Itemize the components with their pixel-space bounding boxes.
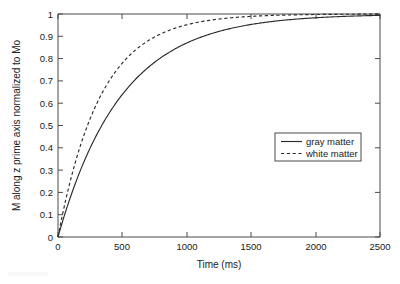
y-tick-label: 0.2 [40, 187, 53, 198]
chart-plot: 0 500 1000 1500 2000 2500 0 0.1 0.2 0.3 … [0, 0, 400, 284]
legend-label-gray-matter: gray matter [306, 136, 354, 147]
x-tickmarks [58, 14, 380, 237]
y-tick-labels: 0 0.1 0.2 0.3 0.4 0.5 0.6 0.7 0.8 0.9 1 [40, 9, 53, 243]
axis-box [58, 14, 380, 237]
series-line-gray-matter [58, 15, 380, 237]
y-axis-title: M along z prime axis normalized to Mo [11, 39, 22, 211]
y-tick-label: 0 [48, 232, 53, 243]
x-tick-label: 1000 [176, 241, 197, 252]
x-tick-label: 2000 [305, 241, 326, 252]
y-tick-label: 0.3 [40, 165, 53, 176]
y-tick-label: 0.9 [40, 31, 53, 42]
y-tick-label: 1 [48, 9, 53, 20]
x-tick-label: 1500 [240, 241, 261, 252]
legend: gray matter white matter [275, 133, 361, 161]
x-tick-label: 2500 [369, 241, 390, 252]
y-tick-label: 0.6 [40, 98, 53, 109]
y-tickmarks [58, 14, 380, 237]
x-axis-title: Time (ms) [197, 259, 242, 270]
series-line-white-matter [58, 14, 380, 237]
figure-container: 0 500 1000 1500 2000 2500 0 0.1 0.2 0.3 … [0, 0, 400, 284]
x-tick-label: 0 [55, 241, 60, 252]
x-tick-label: 500 [114, 241, 130, 252]
legend-label-white-matter: white matter [305, 148, 358, 159]
scan-artifact [8, 272, 48, 276]
y-tick-label: 0.5 [40, 120, 53, 131]
x-tick-labels: 0 500 1000 1500 2000 2500 [55, 241, 390, 252]
y-tick-label: 0.4 [40, 142, 53, 153]
y-tick-label: 0.8 [40, 53, 53, 64]
y-tick-label: 0.1 [40, 209, 53, 220]
y-tick-label: 0.7 [40, 75, 53, 86]
